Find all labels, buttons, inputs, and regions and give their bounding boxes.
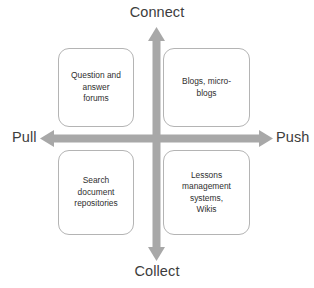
quadrant-box-bottom-right[interactable]: Lessons management systems, Wikis xyxy=(163,150,250,235)
quadrant-label-bottom-right: Lessons management systems, Wikis xyxy=(175,170,238,216)
quadrant-box-top-left[interactable]: Question and answer forums xyxy=(58,48,134,127)
axes-group xyxy=(0,0,314,288)
axis-label-pull: Pull xyxy=(12,129,37,146)
quadrant-label-top-right: Blogs, micro- blogs xyxy=(175,76,238,99)
axis-label-push: Push xyxy=(276,129,309,146)
quadrant-label-bottom-left: Search document repositories xyxy=(67,175,124,209)
quadrant-label-top-left: Question and answer forums xyxy=(64,70,128,104)
quadrant-box-top-right[interactable]: Blogs, micro- blogs xyxy=(163,48,250,127)
axis-label-collect: Collect xyxy=(0,263,314,280)
quadrant-diagram-canvas: Connect Collect Pull Push Question and a… xyxy=(0,0,314,288)
quadrant-box-bottom-left[interactable]: Search document repositories xyxy=(58,150,134,235)
axis-label-connect: Connect xyxy=(0,4,314,21)
